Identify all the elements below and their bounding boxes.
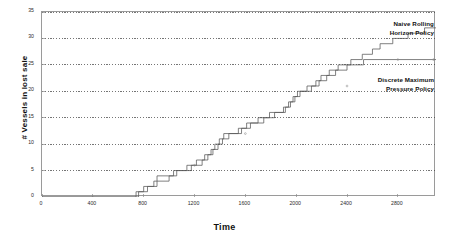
y-tick-label-5: 5 (8, 167, 34, 172)
annotation-discrete-maximum-pressure-policy: Discrete Maximum Pressure Policy (337, 76, 434, 94)
x-axis-title: Time (0, 222, 449, 232)
x-tick-label-1600: 1600 (224, 201, 264, 206)
x-tick-label-2800: 2800 (377, 201, 417, 206)
annotation-naive-line2: Horizon Policy (337, 29, 434, 38)
series-marker-2 (244, 133, 246, 135)
x-tick-label-800: 800 (123, 201, 163, 206)
chart-figure: # Vessels in lost sale 05101520253035 Na… (0, 0, 449, 242)
y-tick-label-20: 20 (8, 87, 34, 92)
y-tick-label-15: 15 (8, 114, 34, 119)
series-line-0 (42, 28, 436, 197)
x-tick-label-400: 400 (72, 201, 112, 206)
y-tick-label-25: 25 (8, 61, 34, 66)
annotation-dmp-line2: Pressure Policy (337, 85, 434, 94)
x-tick-label-0: 0 (21, 201, 61, 206)
y-tick-label-35: 35 (8, 8, 34, 13)
plot-area (41, 11, 435, 196)
y-tick-label-0: 0 (8, 193, 34, 198)
chart-svg (42, 12, 436, 197)
x-tick-label-1200: 1200 (174, 201, 214, 206)
annotation-dmp-line1: Discrete Maximum (337, 76, 434, 85)
annotation-naive-rolling-horizon-policy: Naive Rolling Horizon Policy (337, 20, 434, 38)
x-tick-label-2000: 2000 (275, 201, 315, 206)
x-tick-label-2400: 2400 (326, 201, 366, 206)
y-tick-label-30: 30 (8, 34, 34, 39)
y-tick-label-10: 10 (8, 140, 34, 145)
annotation-naive-line1: Naive Rolling (337, 20, 434, 29)
